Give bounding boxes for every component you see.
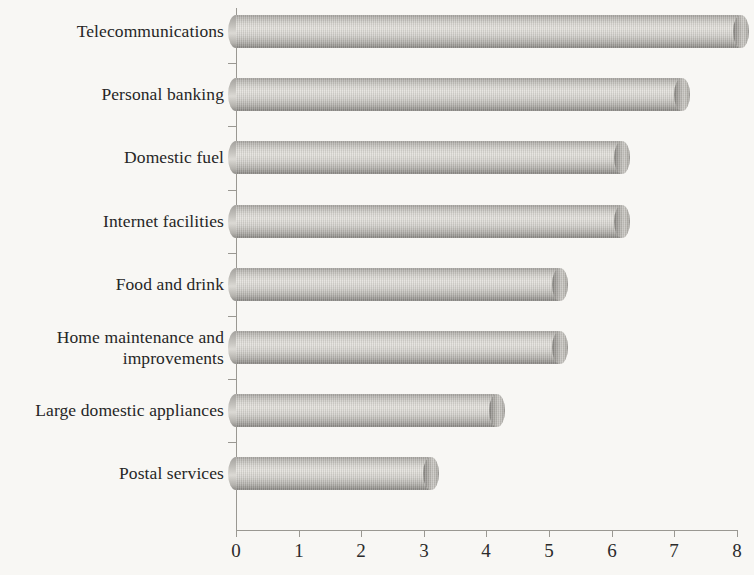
bar-chart: TelecommunicationsPersonal bankingDomest… [0, 0, 754, 575]
bar-end-cap [733, 15, 749, 48]
bar [236, 331, 568, 364]
x-axis-tick [236, 530, 237, 537]
category-label: Domestic fuel [0, 147, 224, 168]
bar-end-cap [674, 78, 690, 111]
x-axis-tick [674, 530, 675, 537]
bar-end-cap [552, 268, 568, 301]
category-label: Large domestic appliances [0, 400, 224, 421]
x-axis-tick-label: 8 [722, 539, 752, 563]
x-axis-tick [486, 530, 487, 537]
x-axis-tick [424, 530, 425, 537]
bar [236, 394, 505, 427]
x-axis-tick-label: 6 [597, 539, 627, 563]
bar-end-cap [614, 141, 630, 174]
bar [236, 141, 630, 174]
bar-body [236, 331, 560, 364]
bar-end-cap [614, 205, 630, 238]
y-axis-tick [228, 63, 236, 64]
y-axis-tick [228, 126, 236, 127]
x-axis-tick-label: 7 [659, 539, 689, 563]
bar [236, 268, 568, 301]
y-axis-tick [228, 190, 236, 191]
y-axis-tick [228, 442, 236, 443]
x-axis-tick [299, 530, 300, 537]
y-axis-tick [228, 316, 236, 317]
category-label: Food and drink [0, 274, 224, 295]
x-axis-tick-label: 4 [471, 539, 501, 563]
bar [236, 78, 690, 111]
x-axis-tick [549, 530, 550, 537]
category-label: Personal banking [0, 84, 224, 105]
x-axis-tick-label: 1 [284, 539, 314, 563]
bar-body [236, 78, 682, 111]
bar [236, 457, 439, 490]
category-label: Home maintenance and improvements [0, 327, 224, 369]
x-axis-tick-label: 3 [409, 539, 439, 563]
bar-body [236, 15, 741, 48]
bar-end-cap [489, 394, 505, 427]
y-axis-tick [228, 379, 236, 380]
x-axis-tick [361, 530, 362, 537]
y-axis-tick [228, 253, 236, 254]
x-axis-tick [612, 530, 613, 537]
bar-body [236, 394, 497, 427]
bar-body [236, 141, 622, 174]
x-axis-tick-label: 0 [221, 539, 251, 563]
category-label: Postal services [0, 463, 224, 484]
bar [236, 205, 630, 238]
bar-body [236, 205, 622, 238]
bar-end-cap [423, 457, 439, 490]
x-axis-tick [737, 530, 738, 537]
x-axis-tick-label: 5 [534, 539, 564, 563]
x-axis-tick-label: 2 [346, 539, 376, 563]
plot-area: TelecommunicationsPersonal bankingDomest… [0, 0, 754, 575]
bar [236, 15, 749, 48]
bar-end-cap [552, 331, 568, 364]
category-label: Internet facilities [0, 211, 224, 232]
bar-body [236, 457, 431, 490]
bar-body [236, 268, 560, 301]
category-label: Telecommunications [0, 21, 224, 42]
